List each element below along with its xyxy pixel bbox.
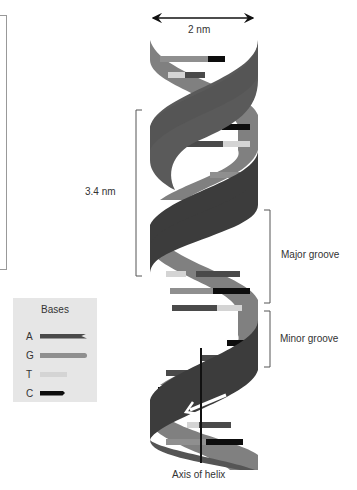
major-groove-bracket <box>264 210 270 303</box>
pitch-label: 3.4 nm <box>85 186 116 197</box>
legend-letter: A <box>26 331 40 342</box>
legend-letter: C <box>26 388 40 399</box>
legend-item-c: C <box>26 388 65 398</box>
bases-legend: Bases A G T C <box>13 298 97 402</box>
minor-groove-label: Minor groove <box>280 333 338 344</box>
base-t-swatch <box>40 372 67 377</box>
pitch-bracket <box>136 110 142 276</box>
legend-item-g: G <box>26 350 87 360</box>
legend-letter: T <box>26 369 40 380</box>
base-a-swatch <box>40 334 87 339</box>
base-c-swatch <box>40 391 65 396</box>
legend-item-t: T <box>26 369 67 379</box>
axis-label: Axis of helix <box>172 469 225 480</box>
dna-helix-graphic <box>0 0 357 490</box>
legend-letter: G <box>26 350 40 361</box>
minor-groove-bracket <box>264 311 270 367</box>
major-groove-label: Major groove <box>281 249 339 260</box>
width-label: 2 nm <box>188 24 210 35</box>
legend-title: Bases <box>13 304 97 315</box>
legend-item-a: A <box>26 331 87 341</box>
base-g-swatch <box>40 353 87 358</box>
